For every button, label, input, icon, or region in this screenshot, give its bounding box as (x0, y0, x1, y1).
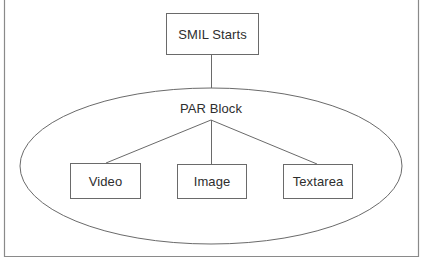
node-smil-starts-label: SMIL Starts (166, 13, 259, 55)
par-block-label: PAR Block (171, 99, 251, 117)
connector-par-to-video (106, 120, 211, 163)
node-textarea-label: Textarea (283, 164, 353, 199)
diagram-canvas: SMIL Starts PAR Block Video Image Textar… (0, 0, 421, 264)
node-image-label: Image (177, 164, 247, 199)
node-video-label: Video (70, 163, 141, 199)
connector-par-to-textarea (211, 120, 317, 164)
